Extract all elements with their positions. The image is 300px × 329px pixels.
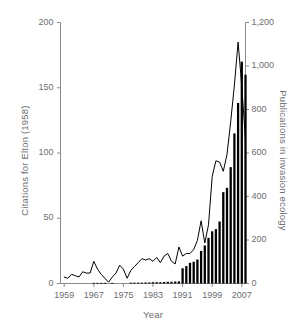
y-tick-right-400: 400 xyxy=(252,191,267,201)
line-series-citations xyxy=(64,42,245,282)
chart-figure: Citations for Elton (1958) Publications … xyxy=(0,0,300,329)
y-tick-right-1000: 1,000 xyxy=(252,60,275,70)
y-tick-right-200: 200 xyxy=(252,234,267,244)
y-tick-right-0: 0 xyxy=(252,278,257,288)
y-tick-left-50: 50 xyxy=(0,212,54,222)
y-tick-left-0: 0 xyxy=(0,278,54,288)
y-tick-left-200: 200 xyxy=(0,17,54,27)
x-axis-title: Year xyxy=(60,309,246,320)
y-tick-right-600: 600 xyxy=(252,147,267,157)
y-tick-right-1200: 1,200 xyxy=(252,17,275,27)
bar-series-publications xyxy=(93,62,247,284)
y-tick-left-150: 150 xyxy=(0,82,54,92)
axis-lines xyxy=(61,23,246,284)
y-tick-right-800: 800 xyxy=(252,104,267,114)
x-tick-2007: 2007 xyxy=(222,290,262,300)
y-axis-right-title: Publications in invasion ecology xyxy=(278,76,289,246)
y-tick-left-100: 100 xyxy=(0,147,54,157)
